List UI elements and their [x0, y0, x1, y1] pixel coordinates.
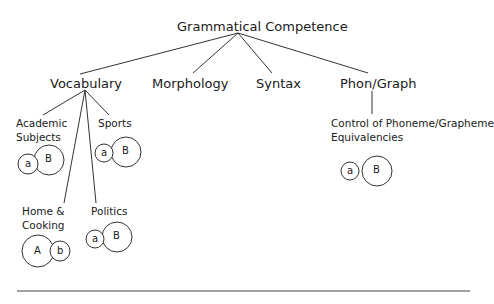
- leaf-academic-subjects: Academic Subjects: [16, 117, 67, 144]
- leaf-label-line1: Academic: [16, 117, 67, 131]
- politics-circle-large-label: B: [113, 231, 120, 241]
- edge-root-syntax: [238, 33, 272, 73]
- leaf-control-phoneme-grapheme: Control of Phoneme/Grapheme Equivalencie…: [331, 117, 494, 144]
- leaf-label-line1: Home &: [22, 205, 65, 219]
- academic-circle-small-label: a: [25, 159, 31, 169]
- sports-circle-large-label: B: [122, 146, 129, 156]
- leaf-label-line2: Cooking: [22, 219, 65, 233]
- leaf-label-line2: Equivalencies: [331, 131, 494, 145]
- edge-vocab-home: [64, 90, 85, 203]
- sports-circle-small-label: a: [101, 148, 107, 158]
- branch-morphology: Morphology: [152, 77, 228, 90]
- leaf-sports: Sports: [98, 117, 132, 131]
- branch-phon-graph: Phon/Graph: [340, 77, 417, 90]
- leaf-label-line1: Sports: [98, 117, 132, 131]
- edge-root-phongraph: [238, 33, 368, 73]
- phongraph-circle-large-label: B: [373, 165, 380, 175]
- edge-vocab-academic: [43, 90, 85, 115]
- branch-vocabulary: Vocabulary: [50, 77, 122, 90]
- leaf-label-line1: Control of Phoneme/Grapheme: [331, 117, 494, 131]
- phongraph-circle-small-label: a: [347, 166, 353, 176]
- home-circle-large-label: A: [34, 246, 41, 256]
- leaf-politics: Politics: [91, 205, 128, 219]
- edge-vocab-politics: [85, 90, 96, 203]
- leaf-label-line2: Subjects: [16, 131, 67, 145]
- leaf-label-line1: Politics: [91, 205, 128, 219]
- home-circle-small-label: b: [57, 246, 63, 256]
- branch-syntax: Syntax: [256, 77, 301, 90]
- leaf-home-cooking: Home & Cooking: [22, 205, 65, 232]
- edge-vocab-sports: [85, 90, 109, 115]
- politics-circle-small-label: a: [92, 234, 98, 244]
- root-node-title: Grammatical Competence: [177, 20, 348, 33]
- academic-circle-large-label: B: [45, 154, 52, 164]
